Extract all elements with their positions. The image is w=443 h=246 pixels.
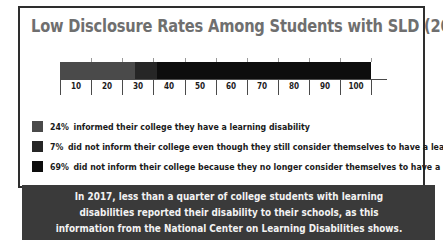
axis-topmark-30 [153, 58, 154, 62]
page-title: Low Disclosure Rates Among Students with… [31, 16, 389, 36]
legend-percent-1: 7% [50, 141, 63, 152]
bar-segment-0 [60, 62, 135, 79]
axis-tick-60 [247, 79, 248, 95]
legend-item: 24% informed their college they have a l… [32, 116, 422, 136]
axis-label-50: 50 [195, 81, 205, 91]
axis-topmark-50 [216, 58, 217, 62]
axis-tick-origin [60, 79, 61, 95]
legend-swatch-1 [32, 141, 43, 152]
axis-tick-70 [278, 79, 279, 95]
axis-tick-100 [371, 79, 372, 95]
axis-topmark-20 [122, 58, 123, 62]
axis-label-60: 60 [226, 81, 236, 91]
axis-tick-10 [91, 79, 92, 95]
axis-topmark-60 [247, 58, 248, 62]
axis-topmark-40 [185, 58, 186, 62]
legend-percent-0: 24% [50, 121, 69, 132]
legend-swatch-0 [32, 121, 43, 132]
chart-legend: 24% informed their college they have a l… [32, 116, 422, 176]
legend-item: 69% did not inform their college because… [32, 156, 422, 176]
axis-tick-50 [216, 79, 217, 95]
axis-topmark-80 [309, 58, 310, 62]
axis-tick-90 [340, 79, 341, 95]
legend-description-0: informed their college they have a learn… [71, 121, 310, 132]
axis-label-90: 90 [320, 81, 330, 91]
bar-segment-1 [135, 62, 157, 79]
stacked-bar-chart: 102030405060708090100 [60, 62, 387, 106]
chart-card: Low Disclosure Rates Among Students with… [18, 6, 425, 188]
axis-label-20: 20 [102, 81, 112, 91]
axis-tick-20 [122, 79, 123, 95]
footer-caption: In 2017, less than a quarter of college … [50, 189, 407, 237]
legend-percent-2: 69% [50, 161, 69, 172]
legend-item: 7% did not inform their college even tho… [32, 136, 422, 156]
axis-tick-30 [153, 79, 154, 95]
axis-label-30: 30 [133, 81, 143, 91]
axis-topmark-90 [340, 58, 341, 62]
axis-topmark-10 [91, 58, 92, 62]
legend-description-2: did not inform their college because the… [71, 161, 443, 172]
bar-segment-2 [157, 62, 372, 79]
legend-label-2: 69% did not inform their college because… [50, 161, 443, 172]
legend-description-1: did not inform their college even though… [65, 141, 443, 152]
axis-tick-80 [309, 79, 310, 95]
axis-label-40: 40 [164, 81, 174, 91]
infographic-root: Low Disclosure Rates Among Students with… [0, 0, 443, 246]
legend-label-1: 7% did not inform their college even tho… [50, 141, 443, 152]
legend-swatch-2 [32, 161, 43, 172]
stacked-bar [60, 62, 387, 79]
axis-label-70: 70 [257, 81, 267, 91]
axis-topmark-70 [278, 58, 279, 62]
axis-topmark-100 [371, 58, 372, 62]
axis-label-80: 80 [288, 81, 298, 91]
x-axis: 102030405060708090100 [60, 79, 387, 99]
axis-tick-40 [185, 79, 186, 95]
legend-label-0: 24% informed their college they have a l… [50, 121, 310, 132]
axis-line [60, 79, 387, 80]
footer-band: In 2017, less than a quarter of college … [22, 185, 435, 240]
axis-label-100: 100 [348, 81, 363, 91]
axis-label-10: 10 [70, 81, 80, 91]
